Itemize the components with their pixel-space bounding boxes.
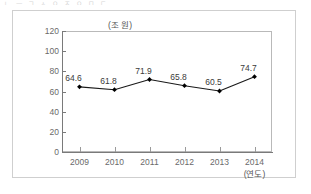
x-axis-tick-mark — [80, 147, 81, 152]
y-axis-unit-label: (조 원) — [108, 18, 132, 30]
y-axis-tick-label: 100 — [45, 46, 59, 56]
x-axis-tick-label: 2014 — [245, 157, 264, 167]
y-axis-tick-label: 120 — [45, 26, 59, 36]
data-point-label: 65.8 — [170, 72, 187, 82]
x-axis-tick-label: 2013 — [210, 157, 229, 167]
data-point-label: 74.7 — [240, 63, 257, 73]
y-axis-tick-label: 40 — [50, 107, 59, 117]
plot-area — [62, 31, 272, 152]
x-axis-tick-label: 2009 — [70, 157, 89, 167]
y-axis-tick-label: 20 — [50, 127, 59, 137]
y-axis-tick-label: 80 — [50, 66, 59, 76]
data-point-label: 64.6 — [65, 73, 82, 83]
y-axis-tick-mark — [62, 31, 66, 32]
y-axis-tick-mark — [62, 112, 66, 113]
data-point-label: 71.9 — [135, 66, 152, 76]
x-axis-tick-mark — [115, 147, 116, 152]
y-axis-tick-mark — [62, 92, 66, 93]
x-axis-tick-mark — [255, 147, 256, 152]
x-axis-unit-label: (연도) — [244, 167, 266, 179]
x-axis-tick-mark — [150, 147, 151, 152]
x-axis-line — [62, 152, 273, 153]
x-axis-tick-label: 2010 — [105, 157, 124, 167]
y-axis-tick-label: 60 — [50, 87, 59, 97]
x-axis-tick-mark — [220, 147, 221, 152]
y-axis-tick-mark — [62, 51, 66, 52]
y-axis-tick-label: 0 — [54, 147, 59, 157]
x-axis-tick-mark — [185, 147, 186, 152]
y-axis-tick-mark — [62, 132, 66, 133]
y-axis-tick-mark — [62, 152, 66, 153]
x-axis-tick-label: 2011 — [140, 157, 158, 167]
data-point-label: 60.5 — [205, 77, 222, 87]
data-point-label: 61.8 — [100, 76, 117, 86]
x-axis-tick-label: 2012 — [175, 157, 194, 167]
y-axis-tick-labels: 020406080100120 — [0, 0, 59, 194]
y-axis-tick-mark — [62, 71, 66, 72]
